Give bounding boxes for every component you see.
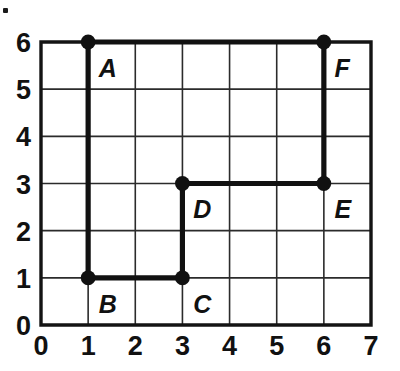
point-label-F: F [335, 54, 351, 82]
y-tick-label-0: 0 [16, 311, 31, 341]
vertex-dot-E [316, 176, 331, 191]
vertex-dots-group [81, 35, 332, 286]
point-label-B: B [99, 290, 117, 318]
x-tick-label-6: 6 [316, 331, 331, 361]
x-tick-label-2: 2 [128, 331, 143, 361]
scan-artifact-dot [3, 8, 8, 13]
y-tick-label-3: 3 [16, 170, 31, 200]
y-tick-label-4: 4 [16, 122, 31, 152]
y-tick-label-1: 1 [16, 264, 31, 294]
vertex-dot-C [175, 270, 190, 285]
point-label-A: A [98, 54, 117, 82]
x-tick-label-0: 0 [33, 331, 48, 361]
y-tick-label-5: 5 [16, 75, 31, 105]
point-label-E: E [335, 195, 353, 223]
polyline-path-group [88, 42, 324, 278]
y-axis-tick-labels: 0123456 [16, 28, 31, 341]
x-tick-label-1: 1 [81, 331, 96, 361]
x-tick-label-7: 7 [363, 331, 378, 361]
y-tick-label-2: 2 [16, 217, 31, 247]
vertex-dot-D [175, 176, 190, 191]
x-tick-label-3: 3 [175, 331, 190, 361]
vertex-dot-F [316, 35, 331, 50]
point-label-D: D [193, 195, 211, 223]
point-label-C: C [193, 290, 212, 318]
x-tick-label-4: 4 [222, 331, 237, 361]
coordinate-grid-figure: ABCDEF 0123456 01234567 [0, 0, 400, 371]
vertex-dot-A [81, 35, 96, 50]
x-axis-tick-labels: 01234567 [33, 331, 378, 361]
coordinate-plane-svg: ABCDEF 0123456 01234567 [0, 0, 400, 371]
vertex-dot-B [81, 270, 96, 285]
y-tick-label-6: 6 [16, 28, 31, 58]
x-tick-label-5: 5 [269, 331, 284, 361]
